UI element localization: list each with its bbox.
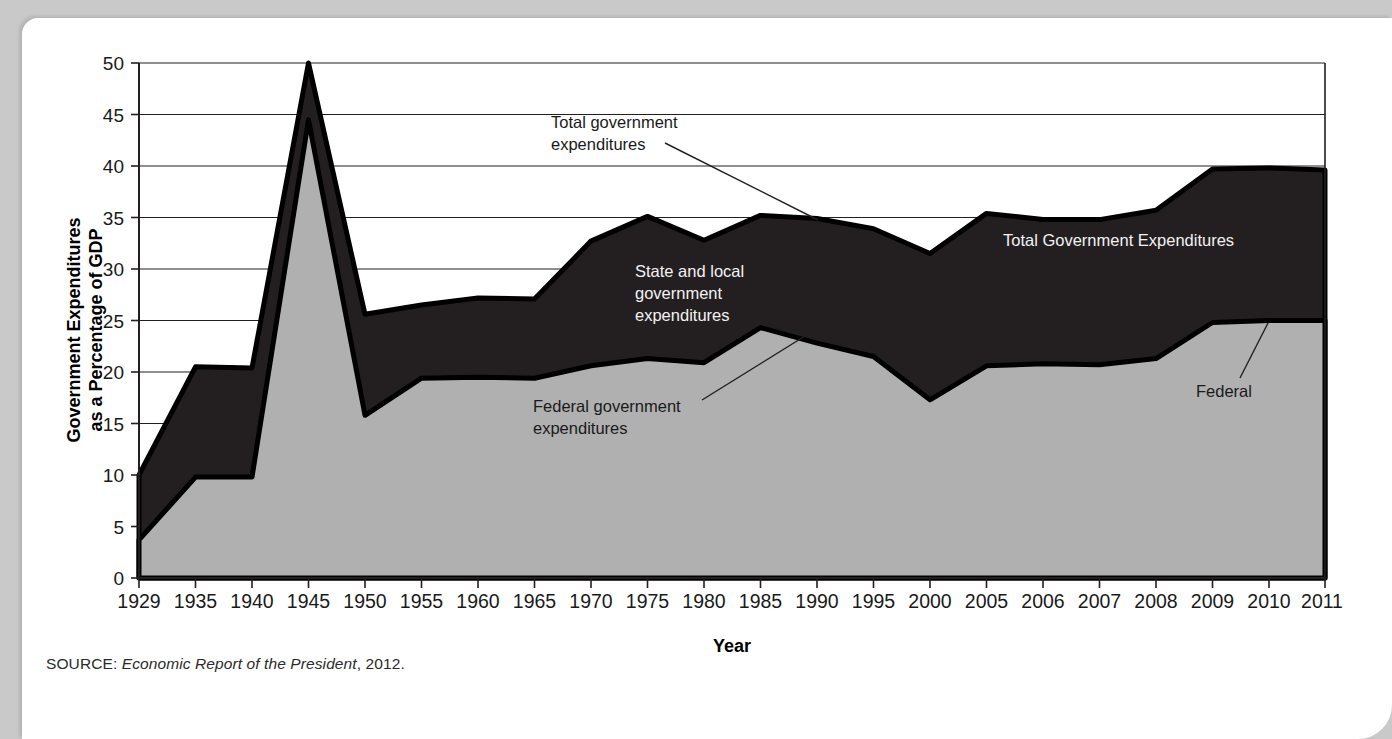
annotation-federal-gov-line1: Federal government bbox=[533, 397, 681, 415]
x-tick-label-1940: 1940 bbox=[230, 590, 274, 612]
chart-figure: 50 45 40 35 30 25 20 15 10 5 0 bbox=[0, 0, 1392, 739]
x-tick-label-2010: 2010 bbox=[1247, 590, 1291, 612]
x-tick-label-2008: 2008 bbox=[1134, 590, 1177, 612]
source-title: Economic Report of the President bbox=[122, 655, 357, 672]
y-tick-label-50: 50 bbox=[103, 53, 124, 74]
x-tick-label-2007: 2007 bbox=[1078, 590, 1121, 612]
annotation-state-local-line2: government bbox=[635, 284, 723, 302]
y-tick-label-25: 25 bbox=[103, 311, 124, 332]
y-tick-label-0: 0 bbox=[113, 568, 124, 589]
x-tick-label-1970: 1970 bbox=[569, 590, 613, 612]
y-tick-label-35: 35 bbox=[103, 208, 124, 229]
x-tick-label-1990: 1990 bbox=[795, 590, 839, 612]
y-tick-label-5: 5 bbox=[113, 517, 124, 538]
annotation-state-local-line1: State and local bbox=[635, 262, 744, 280]
y-axis-title-line2: as a Percentage of GDP bbox=[86, 228, 106, 431]
y-axis-title-group: Government Expenditures as a Percentage … bbox=[64, 217, 106, 442]
annotation-total-government-expenditures-inline: Total Government Expenditures bbox=[1003, 231, 1234, 249]
annotation-federal-gov-line2: expenditures bbox=[533, 419, 627, 437]
annotation-state-local-line3: expenditures bbox=[635, 306, 729, 324]
source-prefix: SOURCE: bbox=[46, 655, 117, 672]
x-tick-labels: 1929 1935 1940 1945 1950 1955 1960 1965 … bbox=[117, 590, 1343, 612]
x-tick-label-1950: 1950 bbox=[343, 590, 387, 612]
x-axis-title: Year bbox=[713, 636, 751, 656]
annotation-federal-label: Federal bbox=[1196, 382, 1252, 400]
y-tick-label-20: 20 bbox=[103, 362, 124, 383]
source-year: , 2012. bbox=[357, 655, 405, 672]
x-tick-label-1995: 1995 bbox=[852, 590, 896, 612]
x-tick-label-2009: 2009 bbox=[1191, 590, 1234, 612]
y-tick-label-15: 15 bbox=[103, 414, 124, 435]
annotation-total-gov-line1: Total government bbox=[551, 113, 678, 131]
x-tick-label-1945: 1945 bbox=[287, 590, 331, 612]
y-tick-label-30: 30 bbox=[103, 259, 124, 280]
annotation-total-gov-leader-line bbox=[665, 143, 818, 220]
x-tick-label-1955: 1955 bbox=[400, 590, 444, 612]
x-tick-label-2000: 2000 bbox=[908, 590, 952, 612]
y-tick-label-10: 10 bbox=[103, 465, 124, 486]
x-tick-label-1965: 1965 bbox=[513, 590, 557, 612]
x-tick-label-1929: 1929 bbox=[117, 590, 160, 612]
x-tick-label-1980: 1980 bbox=[682, 590, 726, 612]
x-tick-label-1960: 1960 bbox=[456, 590, 500, 612]
x-tick-label-2011: 2011 bbox=[1301, 590, 1343, 612]
x-tick-label-1985: 1985 bbox=[739, 590, 783, 612]
source-note: SOURCE: Economic Report of the President… bbox=[46, 655, 405, 673]
x-tick-label-1975: 1975 bbox=[626, 590, 670, 612]
page-background: 50 45 40 35 30 25 20 15 10 5 0 bbox=[0, 0, 1392, 739]
y-axis-title-line1: Government Expenditures bbox=[64, 217, 84, 442]
y-tick-label-40: 40 bbox=[103, 156, 124, 177]
x-tick-label-2005: 2005 bbox=[965, 590, 1009, 612]
x-tick-label-2006: 2006 bbox=[1021, 590, 1064, 612]
x-tick-label-1935: 1935 bbox=[174, 590, 218, 612]
annotation-total-gov-line2: expenditures bbox=[551, 135, 645, 153]
area-chart-svg: 50 45 40 35 30 25 20 15 10 5 0 bbox=[0, 0, 1392, 739]
y-tick-label-45: 45 bbox=[103, 105, 124, 126]
y-tick-labels: 50 45 40 35 30 25 20 15 10 5 0 bbox=[103, 53, 124, 589]
